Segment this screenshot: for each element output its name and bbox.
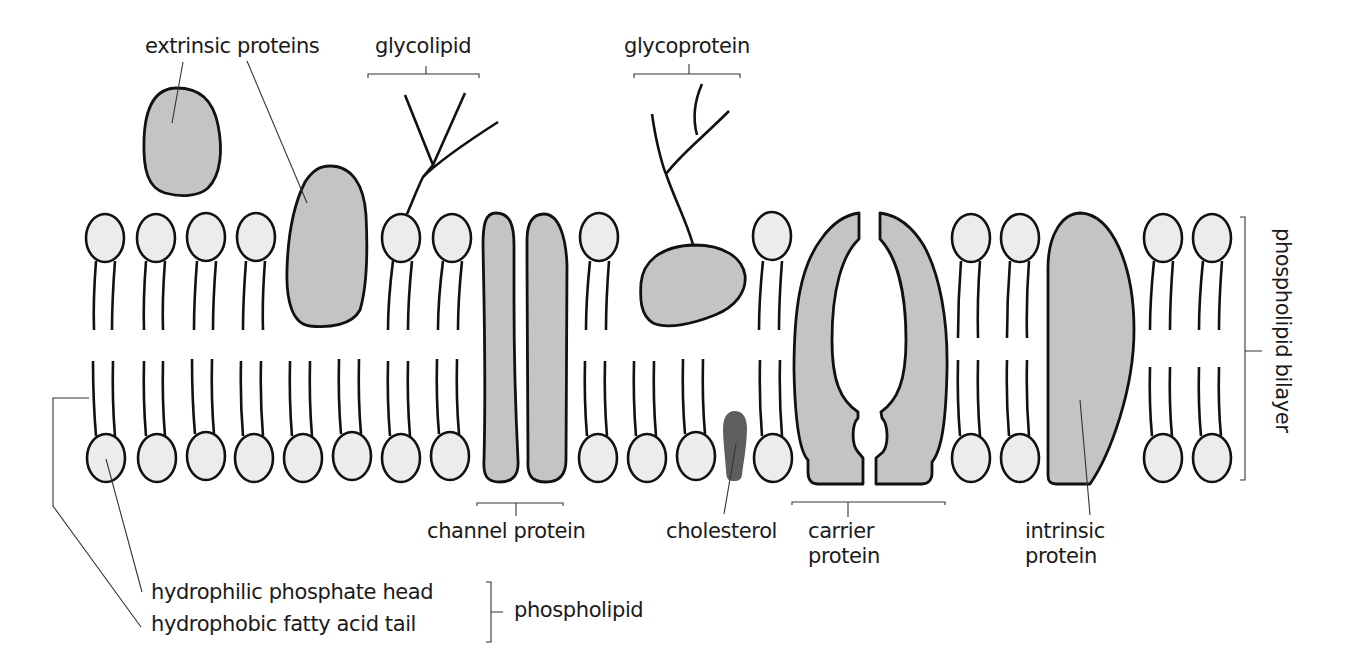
label-intrinsic-protein: intrinsic protein <box>1025 519 1105 569</box>
phospholipid-lower <box>1001 360 1039 482</box>
phospholipid-lower <box>87 361 125 482</box>
phospholipid-upper <box>1001 214 1039 338</box>
label-glycoprotein: glycoprotein <box>624 34 750 59</box>
phospholipid-lower <box>333 359 371 480</box>
phospholipid-upper <box>137 214 175 330</box>
label-phospholipid-bilayer: phospholipid bilayer <box>1271 228 1295 433</box>
phospholipid-upper <box>382 214 420 330</box>
extrinsic-protein-embedded <box>287 166 367 327</box>
label-carrier-protein: carrier protein <box>808 519 880 569</box>
phospholipid-lower <box>382 361 420 482</box>
label-hydrophilic-head: hydrophilic phosphate head <box>151 580 433 605</box>
phospholipid-upper <box>237 213 275 330</box>
label-glycolipid: glycolipid <box>375 34 471 59</box>
phospholipid-lower <box>1144 367 1182 482</box>
phospholipid-lower <box>579 361 617 482</box>
phospholipid-upper <box>952 214 990 338</box>
label-hydrophobic-tail: hydrophobic fatty acid tail <box>151 612 416 637</box>
phospholipid-upper <box>580 213 618 330</box>
phospholipid-lower <box>431 359 469 480</box>
phospholipid-lower <box>284 361 322 482</box>
phospholipid-lower <box>677 359 715 480</box>
phospholipid-upper <box>86 214 124 330</box>
membrane-diagram <box>0 0 1355 664</box>
phospholipid-lower <box>952 360 990 482</box>
phospholipid-upper <box>1144 214 1182 330</box>
phospholipid-upper <box>433 214 471 330</box>
phospholipid-lower <box>628 361 666 482</box>
phospholipid-lower <box>235 361 273 482</box>
cholesterol-molecule <box>723 411 747 481</box>
phospholipid-lower <box>187 359 225 480</box>
extrinsic-protein-top <box>144 88 221 196</box>
channel-protein <box>483 213 567 482</box>
label-channel-protein: channel protein <box>427 519 585 544</box>
phospholipid-lower <box>138 361 176 482</box>
label-extrinsic-proteins: extrinsic proteins <box>145 34 319 59</box>
carrier-protein <box>794 213 947 484</box>
label-cholesterol: cholesterol <box>666 519 777 544</box>
phospholipid-lower <box>1193 367 1231 482</box>
glycoprotein <box>641 84 746 326</box>
glycolipid-carbohydrate-chain <box>405 93 498 214</box>
phospholipid-upper <box>753 212 791 330</box>
phospholipid-upper <box>1193 214 1231 330</box>
phospholipid-upper <box>187 213 225 330</box>
label-phospholipid: phospholipid <box>514 598 643 623</box>
phospholipid-lower <box>754 360 792 482</box>
intrinsic-protein <box>1048 213 1134 484</box>
